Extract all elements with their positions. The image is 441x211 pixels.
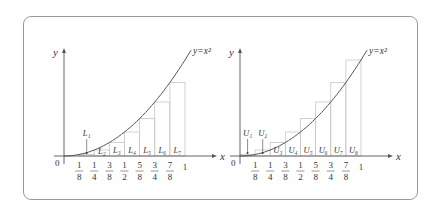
rect-label: U₂	[258, 128, 267, 138]
x-arrow-icon	[388, 154, 393, 158]
y-axis-label: y	[228, 46, 234, 58]
tick-numerator: 1	[268, 160, 273, 170]
tick-one: 1	[183, 162, 188, 172]
tick-numerator: 3	[283, 160, 288, 170]
curve-label: y=x²	[192, 46, 211, 56]
tick-denominator: 8	[137, 172, 142, 182]
rect-label: U₈	[349, 145, 358, 155]
rect-label: U₁	[243, 128, 252, 138]
tick-denominator: 4	[92, 172, 97, 182]
origin-label: 0	[231, 158, 236, 168]
callout-dot	[247, 152, 249, 154]
tick-denominator: 8	[344, 172, 349, 182]
tick-denominator: 8	[313, 172, 318, 182]
tick-denominator: 4	[329, 172, 334, 182]
riemann-sum-figure: xy0y=x²181438125834781L₁L₂L₃L₄L₅L₆L₇xy0y…	[0, 0, 441, 211]
tick-numerator: 3	[329, 160, 334, 170]
tick-numerator: 3	[153, 160, 158, 170]
riemann-rect	[346, 60, 361, 156]
y-axis-label: y	[52, 46, 58, 58]
x-axis-label: x	[395, 150, 401, 162]
tick-denominator: 8	[283, 172, 288, 182]
rect-label: U₇	[334, 145, 343, 155]
tick-numerator: 7	[344, 160, 349, 170]
y-arrow-icon	[62, 48, 66, 53]
curve-y-equals-x-squared	[64, 50, 191, 156]
callout-dot	[262, 152, 264, 154]
tick-numerator: 1	[122, 160, 127, 170]
rect-label: L₆	[157, 145, 166, 155]
x-arrow-icon	[212, 154, 217, 158]
tick-numerator: 1	[92, 160, 97, 170]
tick-numerator: 5	[137, 160, 142, 170]
tick-denominator: 8	[107, 172, 112, 182]
rect-label: U₄	[288, 145, 297, 155]
tick-numerator: 1	[253, 160, 258, 170]
panel-left: xy0y=x²181438125834781L₁L₂L₃L₄L₅L₆L₇	[52, 46, 225, 182]
tick-denominator: 8	[168, 172, 173, 182]
tick-denominator: 2	[122, 172, 127, 182]
rect-label: U₃	[273, 145, 282, 155]
curve-label: y=x²	[368, 46, 387, 56]
tick-numerator: 3	[107, 160, 112, 170]
y-arrow-icon	[238, 48, 242, 53]
tick-numerator: 7	[168, 160, 173, 170]
tick-one: 1	[359, 162, 364, 172]
rect-label: U₆	[319, 145, 328, 155]
tick-denominator: 4	[153, 172, 158, 182]
tick-denominator: 8	[77, 172, 82, 182]
panel-right: xy0y=x²181438125834781U₁U₂U₃U₄U₅U₆U₇U₈	[228, 46, 401, 182]
rect-label: L₁	[82, 128, 91, 138]
callout-dot	[86, 152, 88, 154]
rect-label: L₃	[112, 145, 121, 155]
rect-label: L₄	[127, 145, 136, 155]
rect-label: U₅	[304, 145, 313, 155]
tick-denominator: 8	[253, 172, 258, 182]
origin-label: 0	[55, 158, 60, 168]
tick-denominator: 2	[298, 172, 303, 182]
rect-label: L₇	[173, 145, 182, 155]
tick-numerator: 5	[313, 160, 318, 170]
tick-numerator: 1	[298, 160, 303, 170]
rectangles	[240, 60, 361, 156]
rect-label: L₅	[142, 145, 151, 155]
rect-label: L₂	[97, 146, 106, 156]
tick-numerator: 1	[77, 160, 82, 170]
x-axis-label: x	[219, 150, 225, 162]
tick-denominator: 4	[268, 172, 273, 182]
curve-y-equals-x-squared	[240, 50, 367, 156]
